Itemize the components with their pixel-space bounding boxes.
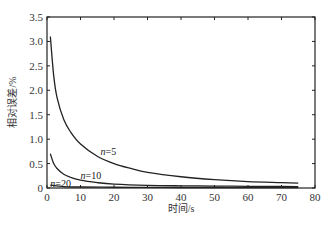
y-axis-title: 相对误差/% <box>6 76 18 127</box>
y-tick-label: 0.5 <box>29 158 43 170</box>
x-tick-label: 0 <box>44 191 50 203</box>
x-tick-label: 60 <box>243 191 255 203</box>
series-line-n-5 <box>50 37 298 184</box>
x-tick-label: 50 <box>209 191 221 203</box>
series-label: n=20 <box>50 178 71 189</box>
y-tick-label: 1.0 <box>29 133 43 145</box>
series-label: n=5 <box>101 146 117 157</box>
plot-frame <box>47 17 315 188</box>
y-tick-label: 0 <box>38 182 44 194</box>
line-chart: 01020304050607080 00.51.01.52.02.53.03.5… <box>0 0 334 229</box>
y-axis: 00.51.01.52.02.53.03.5 <box>29 11 315 194</box>
x-tick-label: 30 <box>142 191 154 203</box>
x-tick-label: 70 <box>276 191 288 203</box>
y-tick-label: 2.0 <box>29 84 43 96</box>
series-lines <box>50 37 298 188</box>
x-tick-label: 40 <box>176 191 188 203</box>
y-tick-label: 1.5 <box>29 109 43 121</box>
y-tick-label: 3.5 <box>29 11 43 23</box>
x-tick-label: 80 <box>310 191 322 203</box>
y-tick-label: 3.0 <box>29 35 43 47</box>
plot-area <box>47 17 315 188</box>
y-tick-label: 2.5 <box>29 60 43 72</box>
x-tick-label: 20 <box>109 191 121 203</box>
series-label: n=10 <box>81 170 102 181</box>
x-tick-label: 10 <box>75 191 87 203</box>
series-labels: n=5n=10n=20 <box>50 146 116 189</box>
x-axis-title: 时间/s <box>168 202 195 214</box>
